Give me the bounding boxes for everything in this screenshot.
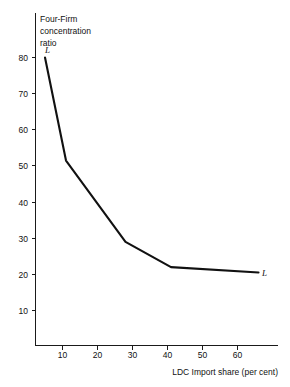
chart-figure: 10 20 30 40 50 60 70 80 10 20 30 40 50 6…: [0, 0, 290, 387]
data-series-line: [45, 58, 259, 273]
y-tick-label-70: 70: [19, 89, 29, 99]
y-tick-label-30: 30: [19, 234, 29, 244]
y-tick-label-40: 40: [19, 198, 29, 208]
y-axis-title-line-1: Four-Firm: [40, 14, 77, 24]
y-tick-label-50: 50: [19, 161, 29, 171]
y-axis-title-line-2: concentration: [40, 26, 91, 36]
x-tick-label-30: 30: [128, 350, 138, 360]
y-tick-label-20: 20: [19, 270, 29, 280]
x-axis-title: LDC Import share (per cent): [172, 367, 278, 377]
y-tick-label-60: 60: [19, 125, 29, 135]
curve-start-label-L: L: [44, 45, 50, 55]
x-tick-label-20: 20: [93, 350, 103, 360]
x-tick-marks: [63, 346, 238, 350]
chart-canvas: 10 20 30 40 50 60 70 80 10 20 30 40 50 6…: [0, 0, 290, 387]
y-tick-label-80: 80: [19, 53, 29, 63]
x-tick-label-50: 50: [198, 350, 208, 360]
x-tick-label-10: 10: [58, 350, 68, 360]
curve-end-label-L: L: [261, 268, 267, 278]
x-tick-label-60: 60: [233, 350, 243, 360]
x-tick-label-40: 40: [163, 350, 173, 360]
y-tick-marks: [32, 58, 36, 311]
y-tick-label-10: 10: [19, 306, 29, 316]
